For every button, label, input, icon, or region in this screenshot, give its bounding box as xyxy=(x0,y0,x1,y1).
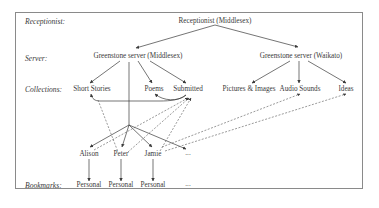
node-user-jamie: Jamie xyxy=(145,151,162,158)
row-label-collections: Collections: xyxy=(25,86,62,94)
node-receptionist-middlesex: Receptionist (Middlesex) xyxy=(179,18,252,25)
node-bookmark-more: ... xyxy=(185,181,190,188)
dashed-peter-shortstories xyxy=(98,100,118,152)
edge-receptionist-waikato xyxy=(215,25,298,47)
node-bookmark-alison: Personal xyxy=(77,182,102,189)
row-label-bookmarks: Bookmarks: xyxy=(25,182,62,190)
node-server-middlesex: Greenstone server (Middlesex) xyxy=(93,53,182,60)
node-bookmark-jamie: Personal xyxy=(141,182,166,189)
node-user-alison: Alison xyxy=(79,151,98,158)
node-server-waikato: Greenstone server (Waikato) xyxy=(260,53,342,60)
node-user-peter: Peter xyxy=(114,151,129,158)
node-ideas: Ideas xyxy=(338,86,353,93)
edge-receptionist-middlesex xyxy=(136,25,215,48)
node-bookmark-peter: Personal xyxy=(109,182,134,189)
node-submitted: Submitted xyxy=(173,86,203,93)
node-short-stories: Short Stories xyxy=(73,86,110,93)
node-poems: Poems xyxy=(144,86,163,93)
node-pictures-images: Pictures & Images xyxy=(222,86,275,93)
node-audio-sounds: Audio Sounds xyxy=(280,86,321,93)
row-label-receptionist: Receptionist: xyxy=(25,18,65,26)
edges-layer xyxy=(0,0,379,208)
row-label-server: Server: xyxy=(25,55,47,63)
node-user-more: ... xyxy=(185,150,190,157)
